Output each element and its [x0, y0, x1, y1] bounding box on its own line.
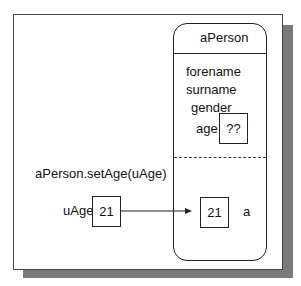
arrow-icon — [0, 0, 301, 286]
